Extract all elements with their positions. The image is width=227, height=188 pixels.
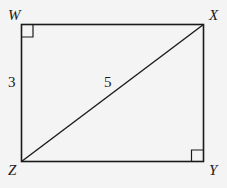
diagonal-zx <box>22 25 204 162</box>
vertex-label-x: X <box>208 7 219 23</box>
side-length-wz: 3 <box>8 74 16 90</box>
rectangle-diagram: W X Z Y 3 5 <box>0 0 227 188</box>
vertex-label-w: W <box>8 7 22 23</box>
vertex-label-z: Z <box>8 162 17 178</box>
diagonal-length-zx: 5 <box>104 74 112 90</box>
right-angle-marker-y <box>192 150 204 162</box>
right-angle-marker-w <box>22 25 34 38</box>
vertex-label-y: Y <box>209 162 219 178</box>
